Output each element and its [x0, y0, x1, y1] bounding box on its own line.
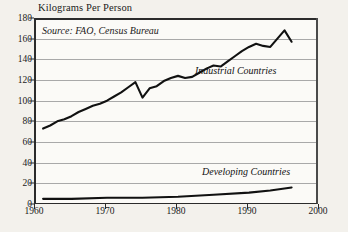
- y-axis-tick-mark: [29, 100, 34, 101]
- x-axis-tick-mark: [318, 204, 319, 209]
- y-axis-tick-mark: [29, 183, 34, 184]
- x-axis-tick-mark: [105, 204, 106, 209]
- y-axis-tick-mark: [29, 59, 34, 60]
- y-axis-tick-mark: [29, 162, 34, 163]
- y-axis-tick-mark: [29, 18, 34, 19]
- y-axis-tick-mark: [29, 121, 34, 122]
- x-axis-tick-mark: [176, 204, 177, 209]
- series-line: [43, 30, 292, 128]
- y-axis-tick-mark: [29, 38, 34, 39]
- chart-container: Kilograms Per Person Source: FAO, Census…: [0, 0, 348, 232]
- plot-area: Source: FAO, Census Bureau Industrial Co…: [34, 18, 318, 204]
- series-label-developing: Developing Countries: [202, 166, 290, 177]
- series-label-industrial: Industrial Countries: [195, 65, 276, 76]
- y-axis-tick-mark: [29, 80, 34, 81]
- chart-title: Kilograms Per Person: [38, 2, 132, 13]
- y-axis-tick-mark: [29, 142, 34, 143]
- x-axis-tick-mark: [34, 204, 35, 209]
- x-axis-tick-mark: [247, 204, 248, 209]
- series-line: [43, 187, 292, 198]
